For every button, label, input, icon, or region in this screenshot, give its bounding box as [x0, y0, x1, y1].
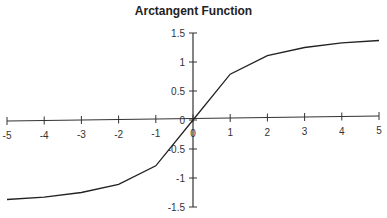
y-tick-label: 0 [179, 115, 185, 126]
y-tick-label: 0.5 [171, 86, 185, 97]
x-tick-label: 4 [339, 126, 345, 137]
y-tick-label: -1 [176, 173, 185, 184]
x-tick-label: 2 [265, 127, 271, 138]
x-tick-label: -3 [77, 129, 86, 140]
x-tick-label: 1 [227, 127, 233, 138]
x-tick-label: -1 [151, 128, 160, 139]
x-tick-label: -4 [40, 130, 49, 141]
y-tick-label: -0.5 [168, 144, 186, 155]
y-tick-label: 1.5 [171, 28, 185, 39]
y-tick-label: 1 [179, 57, 185, 68]
x-tick-label: 0 [190, 128, 196, 139]
x-tick-label: 5 [376, 125, 382, 136]
line-chart: -5-4-3-2-10123451.510.50-0.5-1-1.5 [0, 0, 387, 218]
x-tick-label: 3 [302, 126, 308, 137]
x-tick-label: -5 [3, 130, 12, 141]
y-tick-label: -1.5 [168, 202, 186, 213]
x-tick-label: -2 [114, 129, 123, 140]
